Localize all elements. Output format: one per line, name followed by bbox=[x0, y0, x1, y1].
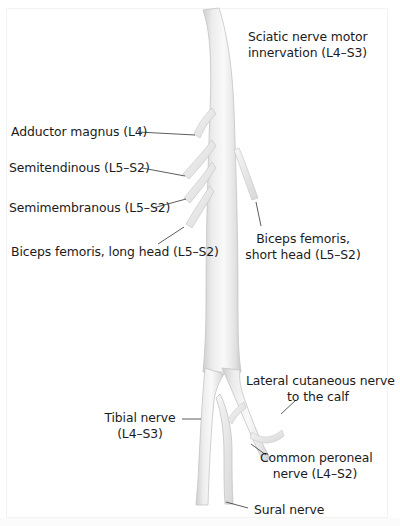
label-sciatic-title-line1: Sciatic nerve motor bbox=[248, 29, 368, 45]
label-common-peroneal-line1: Common peroneal bbox=[260, 450, 370, 466]
label-sciatic-title-line2: innervation (L4–S3) bbox=[248, 45, 368, 61]
label-sciatic-title: Sciatic nerve motor innervation (L4–S3) bbox=[248, 29, 368, 61]
label-adductor-magnus: Adductor magnus (L4) bbox=[11, 124, 147, 140]
branch-biceps-short-head bbox=[234, 148, 258, 200]
label-lateral-cutaneous: Lateral cutaneous nerve to the calf bbox=[246, 373, 390, 405]
leader-biceps-long-head bbox=[158, 227, 184, 244]
tibial-nerve bbox=[196, 368, 224, 505]
label-lateral-cutaneous-line1: Lateral cutaneous nerve bbox=[246, 373, 390, 389]
label-biceps-short-line2: short head (L5–S2) bbox=[236, 247, 370, 263]
label-biceps-short-head: Biceps femoris, short head (L5–S2) bbox=[236, 231, 370, 263]
label-common-peroneal-line2: nerve (L4–S2) bbox=[260, 466, 370, 482]
label-tibial-line2: (L4–S3) bbox=[100, 426, 180, 442]
label-lateral-cutaneous-line2: to the calf bbox=[246, 389, 390, 405]
label-tibial-nerve: Tibial nerve (L4–S3) bbox=[100, 410, 180, 442]
label-semitendinosus: Semitendinous (L5–S2) bbox=[9, 160, 150, 176]
sural-nerve bbox=[216, 394, 246, 504]
label-tibial-line1: Tibial nerve bbox=[100, 410, 180, 426]
label-sural-nerve: Sural nerve bbox=[254, 502, 324, 518]
sciatic-nerve-illustration bbox=[0, 0, 400, 526]
leader-sural bbox=[226, 502, 248, 508]
label-biceps-short-line1: Biceps femoris, bbox=[236, 231, 370, 247]
label-biceps-long-head: Biceps femoris, long head (L5–S2) bbox=[11, 244, 219, 260]
leader-biceps-short-head bbox=[256, 202, 261, 226]
label-semimembranosus: Semimembranous (L5–S2) bbox=[9, 200, 170, 216]
label-common-peroneal: Common peroneal nerve (L4–S2) bbox=[260, 450, 370, 482]
